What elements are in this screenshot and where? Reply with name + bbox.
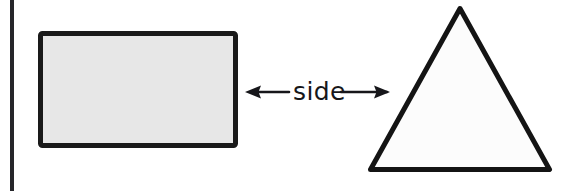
page-binding-line-icon (10, 0, 14, 191)
rectangle-shape (41, 34, 236, 146)
geometry-diagram: side (0, 0, 574, 191)
figure-canvas: side (0, 0, 574, 191)
side-label: side (293, 77, 346, 106)
